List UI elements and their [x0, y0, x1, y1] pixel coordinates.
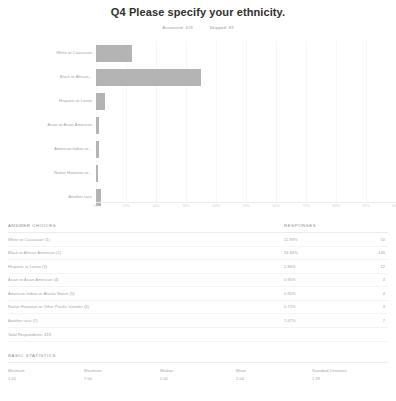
- statistic-value: 7.00: [84, 376, 160, 381]
- table-row: Hispanic or Latino (3)2.86%12: [8, 260, 388, 274]
- statistic-cell: Minimum1.00: [8, 368, 84, 381]
- chart-bar[interactable]: [96, 69, 201, 86]
- x-tick-label: 100%: [391, 204, 396, 208]
- survey-results-page: Q4 Please specify your ethnicity. Answer…: [0, 0, 396, 401]
- col-header-answer-choices: ANSWER CHOICES: [8, 223, 284, 228]
- statistic-value: 1.99: [312, 376, 388, 381]
- chart-bars: White or CaucasianBlack or African...His…: [0, 41, 396, 209]
- chart-bar-track: [96, 137, 396, 161]
- answer-choice-label: White or Caucasian (1): [8, 237, 284, 242]
- answer-choice-label: Hispanic or Latino (3): [8, 264, 284, 269]
- statistic-label: Median: [160, 368, 236, 373]
- chart-bar-track: [96, 89, 396, 113]
- response-count: 7: [356, 318, 388, 323]
- answer-choice-label: Black or African American (2): [8, 250, 284, 255]
- chart-x-axis: [96, 202, 396, 203]
- chart-category-label: Native Hawaiian or...: [0, 170, 96, 176]
- chart-bar-track: [96, 65, 396, 89]
- answer-choice-label: Native Hawaiian or Other Pacific Islande…: [8, 304, 284, 309]
- chart-category-label: Asian or Asian American: [0, 122, 96, 128]
- statistic-label: Maximum: [84, 368, 160, 373]
- col-header-responses: RESPONSES: [284, 223, 388, 228]
- chart-x-tick-labels: 0%10%20%30%40%50%60%70%80%90%100%: [96, 204, 396, 213]
- chart-category-label: Another race: [0, 194, 96, 200]
- ethnicity-bar-chart: White or CaucasianBlack or African...His…: [0, 41, 396, 213]
- x-tick-label: 40%: [212, 204, 219, 208]
- x-tick-label: 80%: [332, 204, 339, 208]
- chart-category-label: Hispanic or Latino: [0, 98, 96, 104]
- statistic-label: Mean: [236, 368, 312, 373]
- x-tick-label: 10%: [122, 204, 129, 208]
- table-row: White or Caucasian (1)11.93%50: [8, 233, 388, 247]
- chart-bar[interactable]: [96, 141, 99, 158]
- table-row: Black or African American (2)34.84%146: [8, 247, 388, 261]
- chart-bar[interactable]: [96, 93, 105, 110]
- response-percent: 0.72%: [284, 304, 356, 309]
- response-count: 50: [356, 237, 388, 242]
- chart-row: Asian or Asian American: [0, 113, 396, 137]
- table-row: American Indian or Alaska Native (5)0.95…: [8, 287, 388, 301]
- table-row: Native Hawaiian or Other Pacific Islande…: [8, 301, 388, 315]
- response-count: 3: [356, 304, 388, 309]
- statistic-value: 1.00: [8, 376, 84, 381]
- chart-bar[interactable]: [96, 165, 98, 182]
- table-row: Asian or Asian American (4)0.95%4: [8, 274, 388, 288]
- chart-row: Native Hawaiian or...: [0, 161, 396, 185]
- answer-table-header: ANSWER CHOICES RESPONSES: [8, 223, 388, 233]
- basic-statistics-row: Minimum1.00Maximum7.00Median2.00Mean2.04…: [8, 368, 388, 381]
- response-percent: 2.86%: [284, 264, 356, 269]
- statistic-cell: Standard Deviation1.99: [312, 368, 388, 381]
- response-count: 4: [356, 277, 388, 282]
- response-percent: 1.67%: [284, 318, 356, 323]
- response-percent: 11.93%: [284, 237, 356, 242]
- chart-bar-track: [96, 41, 396, 65]
- chart-bar[interactable]: [96, 117, 99, 134]
- statistic-cell: Maximum7.00: [84, 368, 160, 381]
- statistic-value: 2.00: [160, 376, 236, 381]
- page-title: Q4 Please specify your ethnicity.: [0, 0, 396, 18]
- answered-count: Answered: 419: [162, 25, 193, 30]
- chart-category-label: American Indian or...: [0, 146, 96, 152]
- chart-row: American Indian or...: [0, 137, 396, 161]
- skipped-count: Skipped: 83: [209, 25, 233, 30]
- answer-choices-section: ANSWER CHOICES RESPONSES White or Caucas…: [0, 223, 396, 381]
- response-count: 12: [356, 264, 388, 269]
- total-respondents: Total Respondents: 419: [8, 328, 388, 342]
- x-tick-label: 50%: [242, 204, 249, 208]
- table-row: Another race (7)1.67%7: [8, 314, 388, 328]
- chart-row: White or Caucasian: [0, 41, 396, 65]
- chart-category-label: White or Caucasian: [0, 50, 96, 56]
- x-tick-label: 90%: [362, 204, 369, 208]
- chart-category-label: Black or African...: [0, 74, 96, 80]
- response-meta: Answered: 419 Skipped: 83: [0, 25, 396, 30]
- response-count: 4: [356, 291, 388, 296]
- basic-statistics-heading: BASIC STATISTICS: [8, 353, 388, 363]
- answer-choice-label: American Indian or Alaska Native (5): [8, 291, 284, 296]
- chart-bar-track: [96, 161, 396, 185]
- response-percent: 0.95%: [284, 291, 356, 296]
- chart-bar[interactable]: [96, 45, 132, 62]
- statistic-label: Standard Deviation: [312, 368, 388, 373]
- statistic-label: Minimum: [8, 368, 84, 373]
- statistic-value: 2.04: [236, 376, 312, 381]
- statistic-cell: Mean2.04: [236, 368, 312, 381]
- answer-table-body: White or Caucasian (1)11.93%50Black or A…: [8, 233, 388, 328]
- chart-bar-track: [96, 113, 396, 137]
- response-percent: 0.95%: [284, 277, 356, 282]
- x-tick-label: 0%: [93, 204, 98, 208]
- statistic-cell: Median2.00: [160, 368, 236, 381]
- x-tick-label: 70%: [302, 204, 309, 208]
- answer-choice-label: Asian or Asian American (4): [8, 277, 284, 282]
- response-percent: 34.84%: [284, 250, 356, 255]
- response-count: 146: [356, 250, 388, 255]
- chart-row: Hispanic or Latino: [0, 89, 396, 113]
- x-tick-label: 30%: [182, 204, 189, 208]
- x-tick-label: 20%: [152, 204, 159, 208]
- chart-row: Black or African...: [0, 65, 396, 89]
- answer-choice-label: Another race (7): [8, 318, 284, 323]
- x-tick-label: 60%: [272, 204, 279, 208]
